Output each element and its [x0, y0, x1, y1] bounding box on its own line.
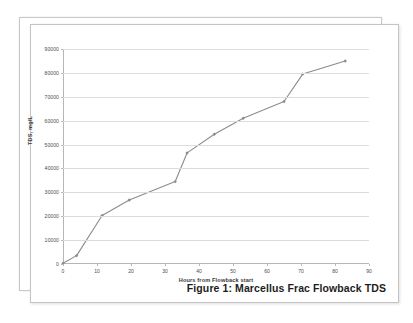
- y-tick-mark: [61, 145, 63, 146]
- figure-page: TDS, mg/L 010000200003000040000500006000…: [0, 0, 413, 323]
- y-tick-label: 70000: [45, 94, 59, 100]
- x-tick-mark: [199, 264, 200, 266]
- chart-container: TDS, mg/L 010000200003000040000500006000…: [31, 25, 398, 302]
- y-axis-title: TDS, mg/L: [27, 116, 33, 145]
- y-tick-mark: [61, 97, 63, 98]
- gridline-horizontal: [63, 216, 369, 217]
- data-point-marker: [174, 180, 177, 183]
- y-tick-label: 30000: [45, 189, 59, 195]
- page-sheet: TDS, mg/L 010000200003000040000500006000…: [30, 24, 399, 303]
- y-tick-label: 90000: [45, 46, 59, 52]
- y-tick-label: 20000: [45, 213, 59, 219]
- gridline-horizontal: [63, 73, 369, 74]
- y-tick-label: 40000: [45, 165, 59, 171]
- figure-caption: Figure 1: Marcellus Frac Flowback TDS: [31, 282, 386, 294]
- gridline-horizontal: [63, 168, 369, 169]
- x-tick-mark: [267, 264, 268, 266]
- x-tick-label: 50: [230, 268, 236, 274]
- gridline-horizontal: [63, 240, 369, 241]
- gridline-horizontal: [63, 121, 369, 122]
- x-tick-label: 10: [94, 268, 100, 274]
- y-tick-label: 10000: [45, 237, 59, 243]
- gridline-horizontal: [63, 49, 369, 50]
- x-tick-mark: [165, 264, 166, 266]
- x-tick-mark: [233, 264, 234, 266]
- y-tick-mark: [61, 73, 63, 74]
- y-tick-mark: [61, 216, 63, 217]
- y-tick-mark: [61, 240, 63, 241]
- x-tick-label: 30: [162, 268, 168, 274]
- x-tick-mark: [369, 264, 370, 266]
- gridline-horizontal: [63, 192, 369, 193]
- gridline-horizontal: [63, 97, 369, 98]
- gridline-horizontal: [63, 145, 369, 146]
- y-tick-mark: [61, 121, 63, 122]
- y-tick-label: 60000: [45, 118, 59, 124]
- y-tick-label: 50000: [45, 142, 59, 148]
- x-tick-label: 80: [332, 268, 338, 274]
- x-tick-mark: [335, 264, 336, 266]
- plot-area: 0100002000030000400005000060000700008000…: [63, 49, 369, 264]
- x-tick-label: 60: [264, 268, 270, 274]
- x-tick-mark: [97, 264, 98, 266]
- x-tick-label: 20: [128, 268, 134, 274]
- x-tick-label: 90: [366, 268, 372, 274]
- y-tick-mark: [61, 49, 63, 50]
- data-point-marker: [344, 59, 347, 62]
- y-tick-label: 80000: [45, 70, 59, 76]
- x-tick-mark: [131, 264, 132, 266]
- x-tick-label: 40: [196, 268, 202, 274]
- x-tick-mark: [301, 264, 302, 266]
- series-polyline: [63, 61, 345, 263]
- y-tick-mark: [61, 192, 63, 193]
- y-tick-mark: [61, 168, 63, 169]
- x-tick-label: 70: [298, 268, 304, 274]
- x-tick-mark: [63, 264, 64, 266]
- y-tick-label: 0: [56, 261, 59, 267]
- data-series-line: [63, 49, 369, 264]
- x-tick-label: 0: [62, 268, 65, 274]
